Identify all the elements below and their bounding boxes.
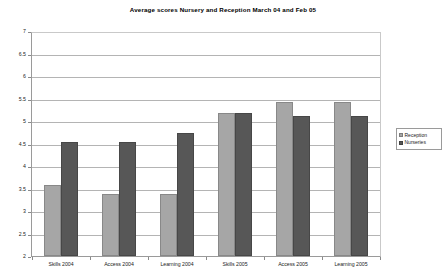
x-axis-category-label: Skills 2004 [32,261,90,267]
y-axis-tick-mark [28,257,31,258]
bars-layer [32,33,380,256]
x-axis-tick-mark [380,257,381,260]
legend-swatch-icon [399,133,403,137]
x-axis-category-label: Access 2005 [264,261,322,267]
x-axis-tick-mark [322,257,323,260]
bar-chart: Average scores Nursery and Reception Mar… [0,0,446,268]
x-axis-tick-mark [148,257,149,260]
y-axis-tick-label: 3 [0,209,26,214]
chart-legend: ReceptionNurseries [396,128,442,150]
y-axis-tick-label: 2.5 [0,232,26,237]
x-axis-category-label: Access 2004 [90,261,148,267]
x-axis-tick-mark [90,257,91,260]
legend-item[interactable]: Reception [399,132,439,139]
bar-nurseries [351,116,368,256]
bar-reception [160,194,177,256]
y-axis-tick-label: 5.5 [0,97,26,102]
bar-nurseries [119,142,136,256]
x-axis-tick-mark [264,257,265,260]
y-axis-tick-label: 7 [0,29,26,34]
y-axis-tick-label: 2 [0,254,26,259]
y-axis-tick-label: 4 [0,164,26,169]
bar-nurseries [235,113,252,256]
legend-label: Nurseries [405,140,426,145]
bar-nurseries [61,142,78,256]
bar-reception [102,194,119,256]
bar-reception [44,185,61,256]
legend-swatch-icon [399,141,403,145]
bar-group [90,33,148,256]
y-axis-tick-label: 5 [0,119,26,124]
bar-nurseries [177,133,194,256]
y-axis-tick-label: 4.5 [0,142,26,147]
bar-reception [218,113,235,256]
bar-group [148,33,206,256]
bar-group [264,33,322,256]
x-axis-category-label: Learning 2005 [322,261,380,267]
legend-item[interactable]: Nurseries [399,139,439,146]
bar-group [32,33,90,256]
y-axis-tick-label: 3.5 [0,187,26,192]
chart-title: Average scores Nursery and Reception Mar… [0,6,446,13]
bar-group [322,33,380,256]
legend-label: Reception [405,133,428,138]
bar-reception [276,102,293,256]
x-axis-tick-mark [32,257,33,260]
x-axis-category-label: Learning 2004 [148,261,206,267]
x-axis-category-label: Skills 2005 [206,261,264,267]
y-axis-tick-label: 6.5 [0,52,26,57]
bar-reception [334,102,351,256]
x-axis-tick-mark [206,257,207,260]
y-axis-tick-label: 6 [0,74,26,79]
bar-nurseries [293,116,310,256]
bar-group [206,33,264,256]
